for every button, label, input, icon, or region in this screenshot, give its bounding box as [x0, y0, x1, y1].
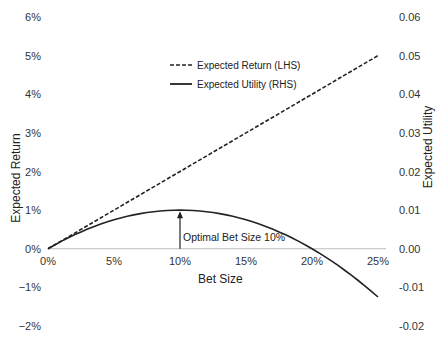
x-tick-label: 25%	[367, 255, 389, 267]
y2-tick-label: 0.04	[399, 88, 420, 100]
y-tick-label: 4%	[25, 88, 41, 100]
legend: Expected Return (LHS) Expected Utility (…	[170, 60, 300, 90]
y-tick-label: 0%	[25, 243, 41, 255]
x-tick-label: 15%	[235, 255, 257, 267]
x-axis-title: Bet Size	[198, 272, 243, 286]
y-axis-title: Expected Return	[9, 133, 23, 222]
x-tick-label: 5%	[106, 255, 122, 267]
y2-tick-label: 0.03	[399, 127, 420, 139]
y2-axis-title: Expected Utility	[421, 106, 435, 189]
arrow-head-icon	[177, 211, 183, 218]
y-tick-label: 2%	[25, 166, 41, 178]
x-tick-label: 0%	[40, 255, 56, 267]
y-tick-label: 3%	[25, 127, 41, 139]
legend-return-label: Expected Return (LHS)	[197, 60, 300, 71]
chart: 6%5%4%3%2%1%0%−1%−2% 0.060.050.040.030.0…	[0, 0, 446, 345]
legend-utility-label: Expected Utility (RHS)	[197, 79, 296, 90]
y2-tick-label: 0.06	[399, 11, 420, 23]
y-tick-label: 6%	[25, 11, 41, 23]
y2-tick-label: -0.01	[399, 281, 424, 293]
y2-tick-label: 0.01	[399, 204, 420, 216]
x-tick-label: 10%	[169, 255, 191, 267]
y2-tick-label: 0.02	[399, 166, 420, 178]
y2-tick-label: 0.05	[399, 50, 420, 62]
y-tick-label: 5%	[25, 50, 41, 62]
y2-tick-label: -0.02	[399, 320, 424, 332]
y-tick-label: −1%	[19, 281, 42, 293]
y2-tick-label: 0.00	[399, 243, 420, 255]
optimal-bet-annotation: Optimal Bet Size 10%	[183, 231, 285, 243]
y-tick-label: −2%	[19, 320, 42, 332]
y-tick-label: 1%	[25, 204, 41, 216]
x-tick-label: 20%	[301, 255, 323, 267]
